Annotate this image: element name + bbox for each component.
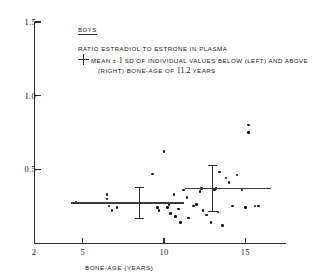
x-tick-15 <box>245 238 246 244</box>
data-point <box>174 215 176 217</box>
x-tick-5 <box>82 238 83 244</box>
data-point <box>177 208 179 210</box>
error-bar-cross-icon <box>78 54 89 65</box>
mean-line-above-11.2 <box>185 188 271 190</box>
data-point <box>205 214 207 216</box>
data-point <box>210 221 212 223</box>
data-point <box>247 124 249 126</box>
data-point <box>236 174 238 176</box>
data-point <box>166 206 168 208</box>
data-point <box>218 171 220 173</box>
data-point <box>199 190 201 192</box>
legend-right-text: (RIGHT) BONE-AGE OF <box>98 67 177 74</box>
data-point <box>116 206 118 208</box>
data-point <box>179 221 181 223</box>
data-point <box>195 203 197 205</box>
data-point <box>186 196 188 198</box>
data-point <box>108 205 110 207</box>
error-cap-upper-below-11.2 <box>135 187 144 188</box>
data-point <box>151 173 153 175</box>
y-tick-label-0.5: 0.5 <box>24 164 36 174</box>
x-axis-title: BONE-AGE (YEARS) <box>85 264 153 271</box>
data-point <box>192 205 194 207</box>
x-axis-line <box>34 243 286 244</box>
legend-split-age: 11.2 <box>177 66 191 75</box>
data-point <box>169 212 171 214</box>
data-point <box>221 224 223 226</box>
legend-description-line2: (RIGHT) BONE-AGE OF 11.2 YEARS <box>98 66 318 75</box>
mean-line-below-11.2 <box>71 202 183 204</box>
data-point <box>228 181 230 183</box>
data-point <box>106 193 108 195</box>
x-tick-label-15: 15 <box>225 247 265 257</box>
data-point <box>187 217 189 219</box>
y-tick-label-1.5: 1.5 <box>24 17 36 27</box>
legend-description-line1: MEAN ± 1 SD OF INDIVIDUAL VALUES BELOW (… <box>91 56 308 65</box>
legend-description-rest: SD OF INDIVIDUAL VALUES BELOW (LEFT) AND… <box>125 57 309 64</box>
error-bar-below-11.2 <box>139 188 140 219</box>
legend-entry: MEAN ± 1 SD OF INDIVIDUAL VALUES BELOW (… <box>78 55 318 64</box>
x-tick-label-5: 5 <box>63 247 103 257</box>
data-point <box>158 209 160 211</box>
legend-years-text: YEARS <box>190 67 215 74</box>
error-bar-above-11.2 <box>212 166 213 212</box>
legend-group-label: BOYS <box>78 27 97 35</box>
y-tick-label-1.0: 1.0 <box>24 91 36 101</box>
data-point <box>247 131 249 133</box>
data-point <box>202 209 204 211</box>
legend: BOYS RATIO ESTRADIOL TO ESTRONE IN PLASM… <box>78 18 318 75</box>
data-point <box>225 177 227 179</box>
error-cap-upper-above-11.2 <box>208 165 217 166</box>
error-cap-lower-above-11.2 <box>208 211 217 212</box>
chart-plot-area: 0.51.01.5510152 BONE-AGE (YEARS) BOYS RA… <box>0 0 330 279</box>
data-point <box>231 205 233 207</box>
legend-mean-text: MEAN <box>91 57 113 64</box>
x-tick-10 <box>163 238 164 244</box>
x-origin-label: 2 <box>14 247 54 257</box>
data-point <box>106 198 108 200</box>
error-cap-lower-below-11.2 <box>135 218 144 219</box>
data-point <box>257 205 259 207</box>
y-axis-line <box>34 22 35 244</box>
data-point <box>173 193 175 195</box>
data-point <box>254 205 256 207</box>
data-point <box>163 150 165 152</box>
data-point <box>111 209 113 211</box>
data-point <box>244 206 246 208</box>
x-tick-label-10: 10 <box>144 247 184 257</box>
legend-title: RATIO ESTRADIOL TO ESTRONE IN PLASMA <box>78 45 318 52</box>
legend-sd-count: 1 <box>117 56 125 65</box>
